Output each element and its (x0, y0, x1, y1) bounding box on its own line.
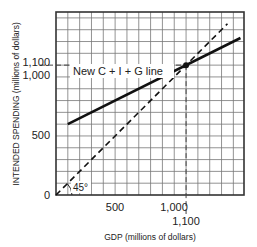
cig-line-label: New C + I + G line (73, 65, 163, 77)
chart-svg: New C + I + G line 45° 1,100 1,000 500 0… (0, 0, 257, 247)
x-tick-1000: 1,000 (160, 201, 188, 213)
y-tick-1000: 1,000 (22, 69, 50, 81)
y-tick-0: 0 (44, 189, 50, 201)
equilibrium-point (183, 62, 189, 68)
plot-frame (56, 12, 244, 195)
y-tick-500: 500 (32, 129, 50, 141)
x-tick-1100: 1,100 (172, 215, 200, 227)
grid (56, 12, 244, 195)
y-tick-1100: 1,100 (22, 56, 50, 68)
x-tick-500: 500 (106, 201, 124, 213)
forty-five-degree-line (56, 24, 227, 195)
cig-line (68, 38, 241, 124)
y-axis-label: INTENDED SPENDING (millions of dollars) (11, 22, 21, 186)
angle-label: 45° (73, 182, 88, 193)
x-axis-label: GDP (millions of dollars) (104, 232, 196, 242)
